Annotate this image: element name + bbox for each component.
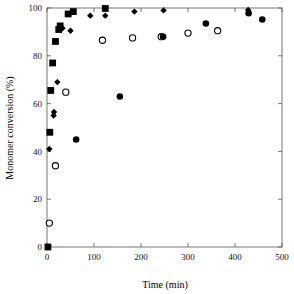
x-tick-label: 0 [45, 252, 50, 262]
data-point-diamond [131, 8, 137, 14]
data-point-circle-open [63, 89, 69, 95]
x-tick-label: 200 [134, 252, 148, 262]
data-point-square [57, 23, 64, 30]
axis-frame [47, 8, 282, 247]
data-point-square [45, 244, 52, 251]
figure-container: 0100200300400500 020406080100 Time (min)… [0, 0, 294, 294]
data-point-diamond [102, 12, 108, 18]
data-point-diamond [54, 79, 60, 85]
data-point-square [70, 8, 77, 15]
data-point-circle-filled [160, 33, 167, 40]
data-point-circle-open [99, 37, 105, 43]
y-tick-label: 100 [29, 3, 43, 13]
plot-frame [47, 8, 282, 247]
data-markers-layer [45, 5, 266, 250]
series-filled-diamond [46, 7, 251, 152]
data-point-square [49, 60, 56, 67]
x-axis-ticks: 0100200300400500 [45, 8, 290, 262]
x-tick-label: 100 [87, 252, 101, 262]
x-axis-title: Time (min) [142, 279, 187, 291]
data-point-circle-filled [259, 16, 266, 23]
y-tick-label: 0 [38, 242, 43, 252]
data-point-circle-open [52, 163, 58, 169]
data-point-circle-filled [117, 93, 124, 100]
data-point-square [47, 87, 54, 94]
data-point-circle-open [215, 28, 221, 34]
data-point-diamond [87, 12, 93, 18]
y-axis-title: Monomer conversion (%) [4, 76, 16, 179]
data-point-square [102, 5, 109, 12]
series-filled-circle [73, 10, 266, 143]
data-point-circle-open [46, 220, 52, 226]
data-point-diamond [67, 28, 73, 34]
data-point-square [46, 129, 53, 136]
x-tick-label: 500 [275, 252, 289, 262]
series-open-circle [46, 28, 220, 227]
data-point-circle-filled [73, 136, 80, 143]
y-tick-label: 80 [33, 51, 43, 61]
x-tick-label: 400 [228, 252, 242, 262]
data-point-circle-open [129, 35, 135, 41]
series-filled-square [45, 5, 109, 250]
scatter-plot: 0100200300400500 020406080100 Time (min)… [0, 0, 294, 294]
y-tick-label: 60 [33, 99, 43, 109]
y-tick-label: 20 [33, 194, 43, 204]
y-axis-ticks: 020406080100 [29, 3, 283, 252]
x-tick-label: 300 [181, 252, 195, 262]
data-point-circle-filled [203, 20, 210, 27]
data-point-circle-open [185, 30, 191, 36]
y-tick-label: 40 [33, 147, 43, 157]
data-point-square [52, 38, 59, 45]
